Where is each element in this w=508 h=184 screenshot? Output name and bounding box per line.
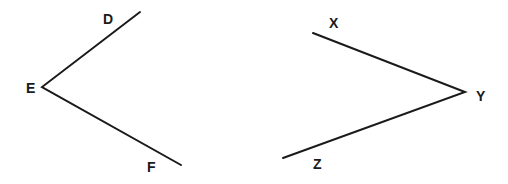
- label-y: Y: [476, 88, 486, 104]
- angle-diagram: D E F X Y Z: [0, 0, 508, 184]
- label-z: Z: [313, 156, 322, 172]
- angle-def: D E F: [26, 11, 181, 175]
- angle-xyz: X Y Z: [283, 15, 486, 172]
- angle-def-rays: [42, 12, 181, 165]
- label-e: E: [26, 80, 35, 96]
- label-d: D: [103, 11, 113, 27]
- angle-xyz-rays: [283, 33, 465, 158]
- label-f: F: [147, 159, 156, 175]
- label-x: X: [329, 15, 339, 31]
